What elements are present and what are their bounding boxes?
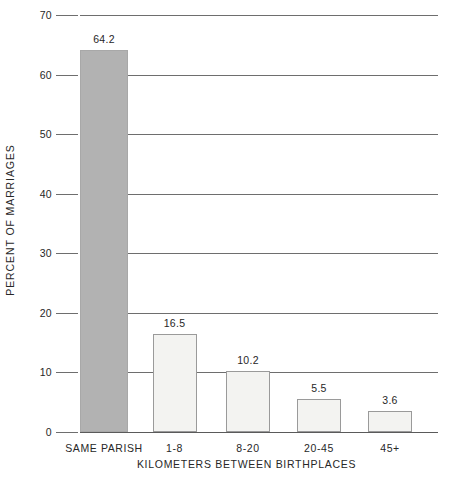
bar-value-label: 16.5 bbox=[133, 317, 217, 329]
bar bbox=[153, 334, 197, 432]
y-axis-tick-mark bbox=[56, 313, 78, 314]
y-axis-title: PERCENT OF MARRIAGES bbox=[2, 0, 18, 440]
bar bbox=[368, 411, 412, 432]
y-axis-tick-label: 40 bbox=[26, 188, 52, 200]
bar bbox=[297, 399, 341, 432]
gridline bbox=[80, 253, 438, 254]
bar-value-label: 64.2 bbox=[60, 33, 148, 45]
y-axis-tick-label: 60 bbox=[26, 69, 52, 81]
plot-area: 64.216.510.25.53.6 bbox=[80, 15, 438, 432]
bar bbox=[80, 50, 128, 432]
x-axis-title: KILOMETERS BETWEEN BIRTHPLACES bbox=[0, 458, 453, 470]
y-axis-tick-mark bbox=[56, 372, 78, 373]
gridline bbox=[80, 75, 438, 76]
gridline bbox=[80, 313, 438, 314]
gridline bbox=[80, 194, 438, 195]
y-axis-tick-mark bbox=[56, 253, 78, 254]
y-axis-title-text: PERCENT OF MARRIAGES bbox=[4, 144, 16, 295]
x-axis-tick-label: 45+ bbox=[340, 442, 440, 454]
y-axis-tick-label: 10 bbox=[26, 366, 52, 378]
bar-chart: PERCENT OF MARRIAGES 010203040506070 64.… bbox=[0, 0, 453, 481]
y-axis-tick-label: 50 bbox=[26, 128, 52, 140]
bar-value-label: 10.2 bbox=[206, 354, 290, 366]
y-axis-tick-label: 20 bbox=[26, 307, 52, 319]
bar-value-label: 5.5 bbox=[277, 382, 361, 394]
y-axis-tick-label: 30 bbox=[26, 247, 52, 259]
y-axis-tick-mark bbox=[56, 432, 78, 433]
y-axis-tick-mark bbox=[56, 15, 78, 16]
bar bbox=[226, 371, 270, 432]
y-axis-tick-label: 0 bbox=[26, 426, 52, 438]
bar-value-label: 3.6 bbox=[348, 394, 432, 406]
gridline bbox=[80, 134, 438, 135]
y-axis-tick-mark bbox=[56, 194, 78, 195]
y-axis-tick-label: 70 bbox=[26, 9, 52, 21]
axis-baseline bbox=[80, 432, 438, 433]
y-axis-tick-mark bbox=[56, 134, 78, 135]
gridline bbox=[80, 15, 438, 16]
y-axis-tick-mark bbox=[56, 75, 78, 76]
